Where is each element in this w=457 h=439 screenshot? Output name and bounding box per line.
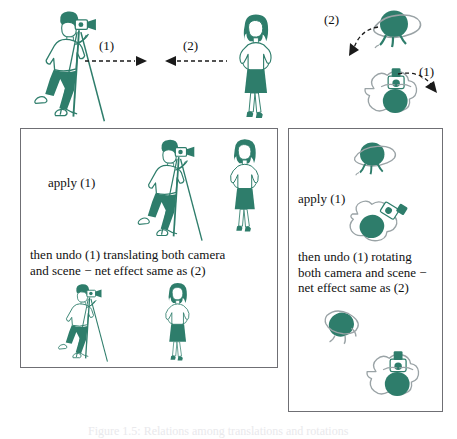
right-panel: apply (1) then undo (1) rotating both ca… [288, 128, 443, 412]
camera-globe-icon [361, 345, 437, 407]
transform-1-label: (1) [99, 38, 114, 53]
rotation-2-label: (2) [324, 12, 339, 27]
right-panel-globe-applied [347, 135, 401, 183]
camera-globe-tilted-icon [341, 191, 417, 253]
left-panel-subject-undone [153, 281, 201, 365]
right-panel-undo-text: then undo (1) rotating both camera and s… [298, 249, 446, 296]
right-panel-apply-label: apply (1) [298, 191, 345, 206]
left-panel: apply (1) then undo (1) translating both… [20, 128, 278, 368]
left-panel-apply-label: apply (1) [48, 175, 95, 190]
globe-icon [347, 135, 401, 183]
photographer-icon [119, 133, 211, 245]
left-panel-undo-text: then undo (1) translating both camera an… [30, 247, 278, 278]
woman-icon [153, 281, 201, 365]
woman-icon [226, 12, 284, 124]
left-panel-subject-applied [219, 137, 269, 237]
rotation-2-arrow [340, 24, 382, 64]
left-panel-photographer-applied [119, 133, 211, 245]
transform-1-arrow [84, 55, 150, 67]
right-panel-globe-undone [317, 301, 373, 351]
rotation-1-arrow [395, 68, 445, 104]
top-subject-figure [226, 12, 284, 124]
right-panel-camera-globe-applied [341, 191, 417, 253]
woman-icon [219, 137, 269, 237]
globe-tilted-icon [317, 301, 373, 351]
transform-2-arrow [163, 55, 229, 67]
right-panel-camera-globe-undone [361, 345, 437, 407]
left-panel-photographer-undone [33, 279, 125, 365]
figure-caption: Figure 1.5: Relations among translations… [88, 424, 348, 439]
photographer-icon [33, 279, 125, 365]
transform-2-label: (2) [183, 38, 198, 53]
